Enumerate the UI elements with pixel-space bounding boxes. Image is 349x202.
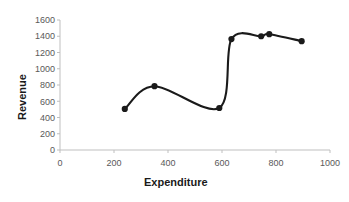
data-point (258, 33, 264, 39)
plot-area (0, 0, 349, 202)
data-point (228, 36, 234, 42)
data-point (151, 83, 157, 89)
series-line (125, 33, 302, 109)
chart-container: 1600 1400 1200 1000 800 600 400 200 0 0 … (0, 0, 349, 202)
series-markers (122, 31, 305, 112)
axis-lines (60, 20, 330, 150)
data-point (216, 105, 222, 111)
tick-marks (57, 20, 330, 153)
data-point (122, 106, 128, 112)
data-point (299, 38, 305, 44)
data-point (266, 31, 272, 37)
